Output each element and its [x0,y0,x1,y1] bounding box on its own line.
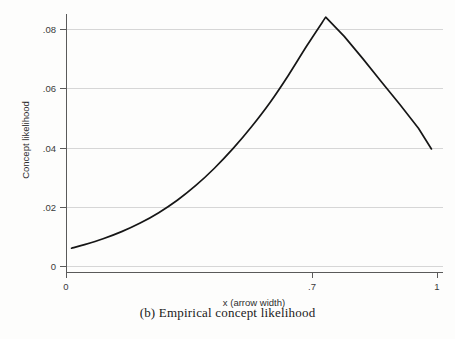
y-tick-label-0.02: .02 [43,202,56,213]
figure-panel: .08 .06 .04 .02 0 0 .7 1 x (arrow width)… [0,0,455,339]
figure-caption: (b) Empirical concept likelihood [0,305,455,321]
x-tick-labels: 0 .7 1 [63,281,439,292]
y-axis-title: Concept likelihood [20,101,31,179]
x-tick-label-0: 0 [63,281,68,292]
y-tick-label-0.08: .08 [43,24,56,35]
x-tick-label-1: 1 [434,281,439,292]
y-tick-label-0: 0 [51,261,56,272]
y-tick-label-0.04: .04 [43,143,56,154]
y-tick-label-0.06: .06 [43,83,56,94]
axis-spines [66,14,443,272]
y-tickmarks [60,29,66,266]
x-tickmarks [66,272,437,278]
y-tick-labels: .08 .06 .04 .02 0 [43,24,56,272]
concept-likelihood-chart: .08 .06 .04 .02 0 0 .7 1 x (arrow width)… [0,0,455,339]
likelihood-curve [72,17,432,248]
x-tick-label-0.7: .7 [308,281,316,292]
